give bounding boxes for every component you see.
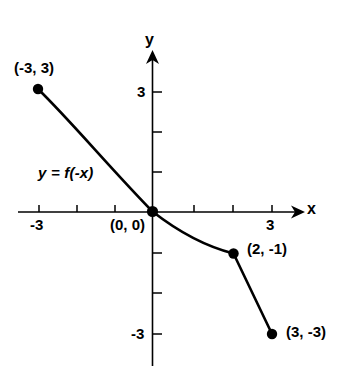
data-point-c xyxy=(267,329,277,339)
x-tick-label-neg3: -3 xyxy=(30,217,43,232)
x-tick-label-3: 3 xyxy=(266,217,274,232)
graph-canvas xyxy=(0,0,348,378)
function-graph-figure: y x 3 -3 -3 3 (-3, 3) (0, 0) (2, -1) (3,… xyxy=(0,0,348,378)
point-label-a: (-3, 3) xyxy=(14,60,54,75)
data-point-origin xyxy=(147,206,158,217)
x-axis-label: x xyxy=(307,201,316,217)
y-axis-label: y xyxy=(145,32,154,48)
point-label-c: (3, -3) xyxy=(286,324,326,339)
data-point-b xyxy=(228,248,238,258)
point-label-origin: (0, 0) xyxy=(110,217,145,232)
point-label-b: (2, -1) xyxy=(247,241,287,256)
y-tick-label-3: 3 xyxy=(137,84,145,99)
y-tick-label-neg3: -3 xyxy=(131,326,144,341)
function-equation-label: y = f(-x) xyxy=(38,165,94,180)
data-point-a xyxy=(33,84,43,94)
